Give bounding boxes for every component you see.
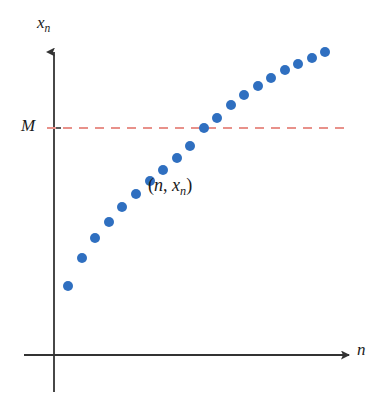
data-point [280,65,290,75]
data-point [239,90,249,100]
data-point [212,113,222,123]
data-point [77,253,87,263]
threshold-label-m: M [21,117,35,134]
data-point [226,100,236,110]
data-point [172,153,182,163]
point-annotation-label: (n, xn) [148,176,192,197]
data-point [199,123,209,133]
plot-canvas [0,0,379,405]
axes-group [24,52,349,392]
data-point [90,233,100,243]
data-point [293,59,303,69]
data-point [266,73,276,83]
y-axis-label: xn [37,14,50,34]
data-point [307,53,317,63]
sequence-plot-figure: xn n M (n, xn) [0,0,379,405]
data-point [117,202,127,212]
data-point [185,141,195,151]
data-point [131,189,141,199]
data-point [158,165,168,175]
data-point [253,81,263,91]
data-point [104,217,114,227]
x-axis-label: n [357,341,366,358]
data-points-group [63,47,330,291]
data-point [320,47,330,57]
data-point [63,281,73,291]
